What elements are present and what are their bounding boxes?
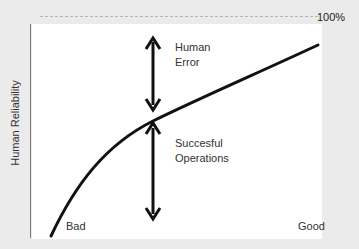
successful-operations-line1: Succesful [175,136,229,151]
human-error-line2: Error [175,55,210,70]
x-axis-label-bad: Bad [66,220,86,232]
human-error-line1: Human [175,40,210,55]
successful-operations-annotation: Succesful Operations [175,136,229,166]
successful-operations-double-arrow-icon [146,123,160,219]
x-axis-label-good: Good [298,220,325,232]
human-error-double-arrow-icon [146,38,160,110]
chart-graphics [0,0,359,249]
successful-operations-line2: Operations [175,151,229,166]
human-error-annotation: Human Error [175,40,210,70]
